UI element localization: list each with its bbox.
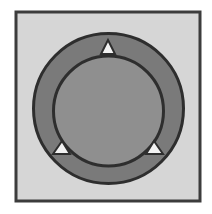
dial-graphic — [0, 0, 212, 214]
dial-diagram — [0, 0, 212, 214]
inner-disc — [54, 56, 164, 166]
